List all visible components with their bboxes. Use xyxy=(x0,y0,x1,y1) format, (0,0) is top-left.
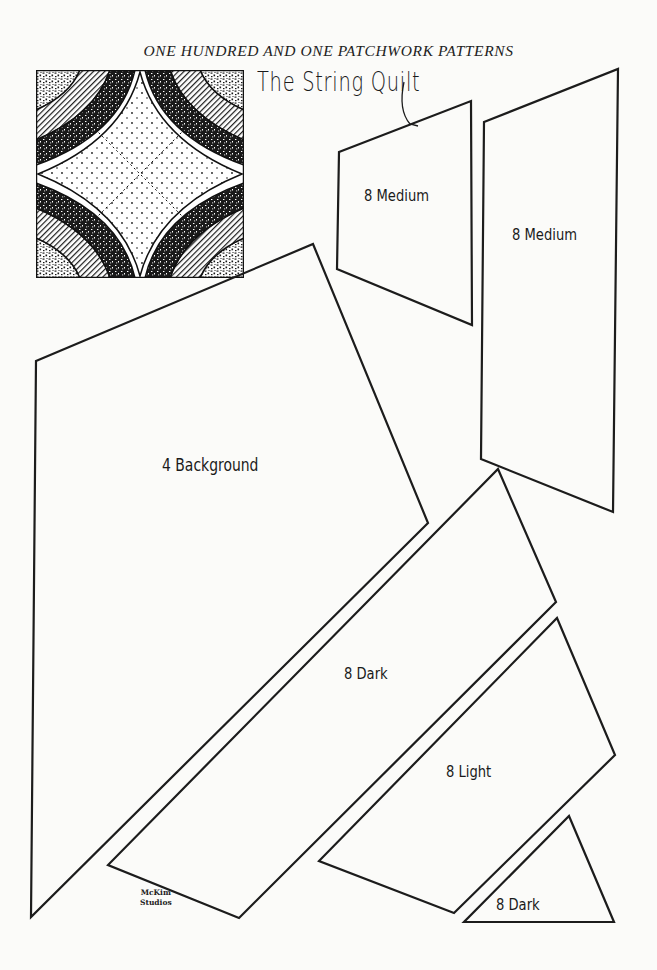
pattern-title: The String Quilt xyxy=(257,66,420,97)
piece-medium-a-outline xyxy=(337,101,472,325)
signature-line-2: Studios xyxy=(140,898,172,908)
quilt-block-illustration xyxy=(36,70,244,278)
piece-label-dark-b: 8 Dark xyxy=(496,895,540,914)
piece-dark-a-outline xyxy=(108,469,556,918)
piece-label-background: 4 Background xyxy=(162,455,258,475)
artist-signature: McKim Studios xyxy=(140,888,172,908)
piece-label-light: 8 Light xyxy=(446,762,491,781)
pattern-drawing xyxy=(0,0,657,970)
signature-line-1: McKim xyxy=(140,888,172,898)
piece-label-medium-a: 8 Medium xyxy=(364,186,429,205)
piece-label-dark-a: 8 Dark xyxy=(344,664,388,683)
piece-label-medium-b: 8 Medium xyxy=(512,225,577,244)
piece-background-outline xyxy=(31,244,428,917)
piece-medium-b-outline xyxy=(481,69,618,512)
